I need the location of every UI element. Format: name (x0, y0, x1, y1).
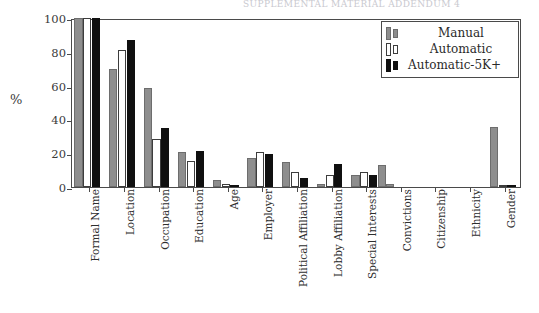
bar (351, 175, 359, 187)
bar-group (317, 20, 343, 187)
legend-swatch-manual (386, 27, 408, 40)
bar (317, 184, 325, 187)
bar (230, 185, 238, 187)
bar (178, 152, 186, 187)
legend-label-manual: Manual (408, 26, 514, 40)
bar (152, 139, 160, 187)
x-axis-label: Lobby Affiliation (333, 189, 344, 277)
bar-group (144, 20, 170, 187)
legend-swatch-automatic-5k (386, 59, 408, 72)
y-tick-label: 20 (51, 147, 66, 161)
bar (118, 50, 126, 187)
bar (490, 127, 498, 187)
bar (196, 151, 204, 187)
x-axis-label: Employer (263, 189, 274, 240)
bar (187, 161, 195, 187)
y-tick-mark (67, 20, 72, 21)
bar (507, 185, 515, 187)
bar (369, 175, 377, 187)
legend-item-automatic: Automatic (386, 41, 514, 57)
bar (265, 154, 273, 187)
legend-label-automatic-5k: Automatic-5K+ (408, 58, 514, 72)
x-axis-label: Special Interests (367, 189, 378, 279)
x-axis-label: Location (125, 189, 136, 235)
bar-group (109, 20, 135, 187)
bar (92, 18, 100, 187)
bar-chart-figure: SUPPLEMENTAL MATERIAL ADDENDUM 4 % 02040… (0, 0, 539, 313)
y-axis-label: % (10, 92, 22, 107)
y-tick-label: 0 (59, 181, 66, 195)
bar (386, 184, 394, 187)
y-tick-label: 40 (51, 113, 66, 127)
x-axis-label: Convictions (402, 189, 413, 251)
bar-group (247, 20, 273, 187)
bar (74, 18, 82, 187)
bar-group (282, 20, 308, 187)
bar (213, 180, 221, 187)
clipped-header-text: SUPPLEMENTAL MATERIAL ADDENDUM 4 (243, 0, 539, 8)
x-axis-label: Occupation (160, 189, 171, 250)
bar (127, 40, 135, 187)
x-axis-label: Ethnicity (471, 189, 482, 237)
legend-item-automatic-5k: Automatic-5K+ (386, 57, 514, 73)
legend-item-manual: Manual (386, 25, 514, 41)
bar (291, 172, 299, 187)
y-tick-label: 80 (51, 46, 66, 60)
bar (83, 18, 91, 187)
bar-group (178, 20, 204, 187)
bar (109, 69, 117, 187)
x-axis-label: Formal Name (90, 189, 101, 262)
legend-label-automatic: Automatic (408, 42, 514, 56)
bar (300, 178, 308, 187)
bar (247, 158, 255, 187)
bar-group (213, 20, 239, 187)
x-axis-label: Education (194, 189, 205, 243)
y-tick-label: 100 (44, 12, 66, 26)
chart-legend: Manual Automatic Automatic-5K+ (381, 21, 519, 78)
bar (334, 164, 342, 187)
y-tick-mark (67, 54, 72, 55)
bar (282, 162, 290, 187)
y-tick-mark (67, 121, 72, 122)
x-axis-label: Political Affiliation (298, 189, 309, 287)
x-axis-label: Age (229, 189, 240, 210)
x-axis-category-labels: Formal NameLocationOccupationEducationAg… (71, 189, 521, 313)
bar (256, 152, 264, 187)
bar-group (74, 20, 100, 187)
x-axis-label: Gender (506, 189, 517, 228)
x-axis-label: Citizenship (436, 189, 447, 249)
bar (360, 172, 368, 187)
bar (144, 88, 152, 187)
y-tick-mark (67, 88, 72, 89)
bar (161, 128, 169, 187)
y-axis-tick-labels: 020406080100 (28, 0, 66, 313)
bar (326, 175, 334, 187)
y-tick-label: 60 (51, 80, 66, 94)
y-tick-mark (67, 155, 72, 156)
legend-swatch-automatic (386, 43, 408, 56)
bar-extra (378, 165, 386, 187)
bar-group (351, 20, 377, 187)
